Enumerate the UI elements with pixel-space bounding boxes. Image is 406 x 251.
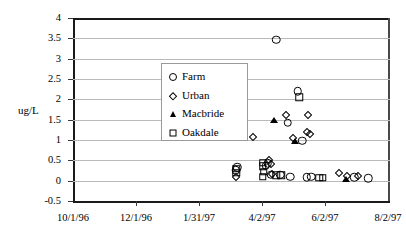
- legend-item-urban: Urban: [168, 87, 248, 105]
- y-axis-tick: [68, 18, 73, 19]
- y-axis-tick: [68, 160, 73, 161]
- data-point-macbride: [270, 117, 278, 123]
- data-point-oakdale: [319, 174, 327, 182]
- legend-label: Macbride: [182, 107, 224, 119]
- circle-marker-icon: [168, 72, 178, 82]
- x-axis-tick-label: 4/2/97: [234, 213, 290, 224]
- y-axis-tick: [68, 201, 73, 202]
- gridline: [73, 59, 390, 60]
- y-axis-tick: [68, 181, 73, 182]
- y-axis-tick: [68, 79, 73, 80]
- data-point-farm: [284, 119, 293, 128]
- x-axis-tick: [262, 201, 263, 206]
- y-axis-tick-label: 4: [0, 13, 61, 24]
- data-point-farm: [272, 35, 281, 44]
- y-axis-tick-label: 0: [0, 176, 61, 187]
- y-axis-tick-label: 3: [0, 54, 61, 65]
- plot-border-top: [73, 18, 390, 20]
- x-axis-tick-label: 8/2/97: [360, 213, 406, 224]
- gridline: [73, 38, 390, 39]
- legend-label: Oakdale: [182, 126, 219, 138]
- x-axis-tick-label: 10/1/96: [45, 213, 101, 224]
- y-axis-tick-label: 2.5: [0, 74, 61, 85]
- data-point-macbride: [342, 176, 350, 182]
- data-point-farm: [364, 174, 373, 183]
- scatter-chart: ug/L FarmUrbanMacbrideOakdale 43.532.521…: [0, 0, 406, 251]
- legend-item-farm: Farm: [168, 68, 248, 86]
- plot-area: FarmUrbanMacbrideOakdale: [73, 18, 390, 203]
- triangle-marker-icon: [168, 109, 178, 119]
- axis-line-left: [73, 18, 75, 203]
- y-axis-tick-label: 1: [0, 135, 61, 146]
- data-point-urban: [303, 111, 311, 119]
- y-axis-tick: [68, 99, 73, 100]
- data-point-farm: [286, 172, 295, 181]
- x-axis-tick-label: 1/31/97: [171, 213, 227, 224]
- y-axis-tick: [68, 59, 73, 60]
- y-axis-tick: [68, 38, 73, 39]
- legend-item-macbride: Macbride: [168, 105, 248, 123]
- y-axis-tick-label: 3.5: [0, 33, 61, 44]
- y-axis-tick-label: -0.5: [0, 196, 61, 207]
- legend-label: Farm: [182, 70, 205, 82]
- square-marker-icon: [168, 128, 178, 138]
- square-glyph: [170, 129, 177, 136]
- diamond-marker-icon: [168, 91, 178, 101]
- data-point-macbride: [291, 138, 299, 144]
- axis-line-bottom: [73, 201, 390, 203]
- y-axis-tick-label: 2: [0, 94, 61, 105]
- y-axis-tick-label: 1.5: [0, 115, 61, 126]
- data-point-farm: [307, 172, 316, 181]
- data-point-oakdale: [295, 94, 303, 102]
- plot-border-right: [388, 18, 390, 203]
- data-point-oakdale: [232, 169, 240, 177]
- triangle-glyph: [170, 111, 176, 117]
- gridline: [73, 160, 390, 161]
- x-axis-tick: [325, 201, 326, 206]
- circle-glyph: [169, 73, 177, 81]
- data-point-oakdale: [272, 172, 280, 180]
- diamond-glyph: [169, 92, 177, 100]
- y-axis-tick-label: 0.5: [0, 155, 61, 166]
- legend: FarmUrbanMacbrideOakdale: [161, 63, 248, 141]
- x-axis-tick: [136, 201, 137, 206]
- y-axis-tick: [68, 120, 73, 121]
- x-axis-tick-label: 12/1/96: [108, 213, 164, 224]
- legend-label: Urban: [182, 89, 210, 101]
- y-axis-tick: [68, 140, 73, 141]
- x-axis-tick: [199, 201, 200, 206]
- data-point-oakdale: [259, 173, 267, 181]
- data-point-urban: [306, 130, 314, 138]
- x-axis-tick-label: 6/2/97: [297, 213, 353, 224]
- legend-item-oakdale: Oakdale: [168, 124, 248, 142]
